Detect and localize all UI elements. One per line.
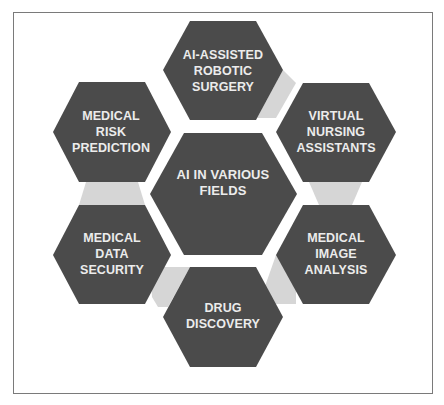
hexagon-bottom-right-line-1: MEDICAL: [307, 231, 365, 245]
hexagon-top-left-line-2: RISK: [96, 125, 126, 139]
hexagon-center: AI IN VARIOUS FIELDS: [150, 133, 297, 255]
hexagon-bottom-right-line-2: IMAGE: [315, 247, 356, 261]
hexagon-top-right-line-1: VIRTUAL: [309, 109, 364, 123]
connector-top-right-to-bottom-right: [309, 182, 362, 205]
hexagon-bottom-left-line-3: SECURITY: [80, 263, 145, 277]
hexagon-top-right-line-3: ASSISTANTS: [296, 141, 375, 155]
hexagon-top-line-1: AI-ASSISTED: [183, 48, 263, 62]
hexagon-bottom-left-line-2: DATA: [95, 247, 128, 261]
hexagon-top-left-line-1: MEDICAL: [82, 109, 140, 123]
hexagon-center-line-1: AI IN VARIOUS: [177, 167, 270, 182]
hexagon-top-line-3: SURGERY: [192, 80, 255, 94]
hexagon-center-line-2: FIELDS: [200, 183, 247, 198]
hexagon-bottom-line-2: DISCOVERY: [186, 317, 261, 331]
hexagon-top-left: MEDICAL RISK PREDICTION: [53, 82, 171, 182]
hexagon-top-line-2: ROBOTIC: [194, 64, 252, 78]
hexagon-top-right: VIRTUAL NURSING ASSISTANTS: [276, 83, 396, 182]
hexagon-top-left-line-3: PREDICTION: [72, 141, 150, 155]
hexagon-diagram: AI-ASSISTED ROBOTIC SURGERY VIRTUAL NURS…: [0, 0, 444, 405]
connector-bottom-left-to-top-left: [79, 182, 145, 205]
hexagon-bottom-left-line-1: MEDICAL: [83, 231, 141, 245]
hexagon-bottom-line-1: DRUG: [204, 301, 241, 315]
hexagon-bottom-right-line-3: ANALYSIS: [305, 263, 368, 277]
hexagon-top-right-line-2: NURSING: [307, 125, 365, 139]
